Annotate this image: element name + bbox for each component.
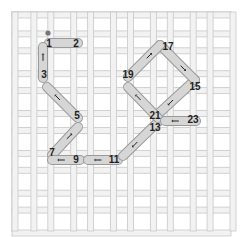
stitch-label: 17: [162, 41, 174, 52]
stitch-label: 13: [149, 122, 161, 133]
start-point-dot: [45, 30, 50, 35]
stitch-diagram: 12357911131517192123: [0, 0, 240, 237]
stitch-label: 2: [73, 38, 79, 49]
stitch-label: 3: [41, 69, 47, 80]
stitch-label: 19: [122, 69, 134, 80]
stitch-label: 15: [189, 81, 201, 92]
stitch-label: 1: [46, 38, 52, 49]
stitch-label: 5: [74, 110, 80, 121]
stitch-label: 21: [149, 110, 161, 121]
stitch-label: 7: [49, 147, 55, 158]
stitch-label: 9: [73, 154, 79, 165]
stitch-label: 11: [109, 154, 120, 165]
stitch-label: 23: [187, 114, 199, 125]
